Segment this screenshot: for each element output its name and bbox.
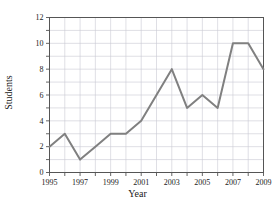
x-axis-title: Year bbox=[0, 188, 275, 199]
svg-text:2009: 2009 bbox=[256, 178, 272, 187]
svg-text:1999: 1999 bbox=[103, 178, 119, 187]
plot-area: 19951997199920012003200520072009 0246810… bbox=[0, 0, 275, 206]
svg-text:2: 2 bbox=[40, 142, 44, 151]
svg-text:8: 8 bbox=[40, 65, 44, 74]
svg-text:12: 12 bbox=[36, 13, 44, 22]
svg-text:4: 4 bbox=[40, 117, 44, 126]
svg-text:2007: 2007 bbox=[225, 178, 241, 187]
line-chart-figure: 19951997199920012003200520072009 0246810… bbox=[0, 0, 275, 206]
svg-text:2001: 2001 bbox=[133, 178, 149, 187]
x-tick-labels: 19951997199920012003200520072009 bbox=[42, 178, 272, 187]
svg-text:2003: 2003 bbox=[164, 178, 180, 187]
y-tick-labels: 024681012 bbox=[36, 13, 44, 177]
svg-text:2005: 2005 bbox=[194, 178, 210, 187]
svg-text:1997: 1997 bbox=[72, 178, 88, 187]
svg-text:6: 6 bbox=[40, 91, 44, 100]
svg-text:10: 10 bbox=[36, 39, 44, 48]
y-axis-title: Students bbox=[3, 53, 14, 133]
svg-text:0: 0 bbox=[40, 168, 44, 177]
svg-text:1995: 1995 bbox=[42, 178, 58, 187]
